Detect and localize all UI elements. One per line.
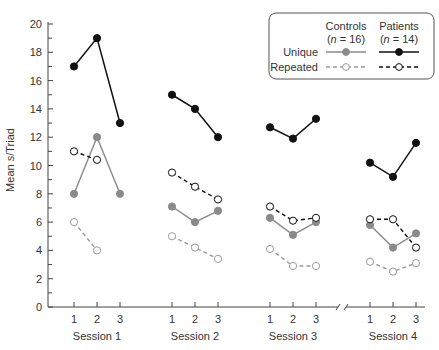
legend: Controls(n = 16)Patients(n = 14)UniqueRe… [269,13,434,79]
legend-column-title: Controls [326,20,367,32]
data-point [214,255,221,262]
x-tick-label: 3 [215,313,221,325]
x-tick-label: 3 [413,313,419,325]
session-label: Session 3 [269,330,317,342]
legend-column-title: Patients [379,20,419,32]
data-point [312,262,319,269]
legend-marker-icon [396,64,403,71]
y-tick-label: 16 [30,75,42,87]
data-point [93,247,100,254]
chart: 02468101214161820 123Session 1123Session… [0,0,439,350]
data-point [191,219,198,226]
legend-row-label: Unique [283,46,318,58]
data-point [389,244,396,251]
data-point [116,119,123,126]
legend-column-n: (n = 16) [327,33,365,45]
data-point [70,148,77,155]
data-point [289,217,296,224]
data-point [214,207,221,214]
legend-row-label: Repeated [270,61,318,73]
data-point [191,244,198,251]
data-point [191,105,198,112]
y-axis: 02468101214161820 [30,18,53,313]
y-tick-label: 4 [36,244,42,256]
data-point [214,134,221,141]
x-axis: 123Session 1123Session 2123Session 3123S… [48,302,425,342]
data-point [93,156,100,163]
y-axis-label: Mean s/Triad [4,128,16,192]
y-tick-label: 10 [30,160,42,172]
data-point [214,196,221,203]
x-tick-label: 3 [313,313,319,325]
legend-marker-icon [396,49,403,56]
data-point [366,258,373,265]
y-tick-label: 2 [36,273,42,285]
data-point [289,231,296,238]
x-tick-label: 1 [71,313,77,325]
data-point [168,203,175,210]
data-point [168,169,175,176]
legend-marker-icon [343,49,350,56]
y-tick-label: 12 [30,131,42,143]
data-point [312,214,319,221]
x-tick-label: 1 [169,313,175,325]
x-tick-label: 2 [192,313,198,325]
x-tick-label: 2 [94,313,100,325]
x-tick-label: 1 [267,313,273,325]
data-point [389,173,396,180]
data-point [70,63,77,70]
data-point [312,115,319,122]
data-point [266,203,273,210]
x-tick-label: 2 [290,313,296,325]
series-controls-unique [70,134,419,252]
session-label: Session 4 [369,330,417,342]
data-point [266,245,273,252]
data-point [168,233,175,240]
data-point [266,124,273,131]
data-point [266,214,273,221]
data-point [412,260,419,267]
data-point [289,262,296,269]
y-tick-label: 8 [36,188,42,200]
data-point [412,230,419,237]
y-tick-label: 6 [36,216,42,228]
data-point [412,139,419,146]
x-tick-label: 3 [117,313,123,325]
x-tick-label: 1 [367,313,373,325]
data-point [93,35,100,42]
y-tick-label: 18 [30,46,42,58]
data-point [70,219,77,226]
session-label: Session 1 [73,330,121,342]
y-tick-label: 14 [30,103,42,115]
data-point [191,183,198,190]
data-point [412,244,419,251]
data-point [70,190,77,197]
data-point [116,190,123,197]
data-point [389,216,396,223]
x-tick-label: 2 [390,313,396,325]
legend-marker-icon [343,64,350,71]
data-point [168,91,175,98]
data-point [366,159,373,166]
data-point [289,135,296,142]
data-point [366,216,373,223]
legend-column-n: (n = 14) [380,33,418,45]
session-label: Session 2 [171,330,219,342]
data-point [389,268,396,275]
y-tick-label: 20 [30,18,42,30]
data-point [93,134,100,141]
y-tick-label: 0 [36,301,42,313]
